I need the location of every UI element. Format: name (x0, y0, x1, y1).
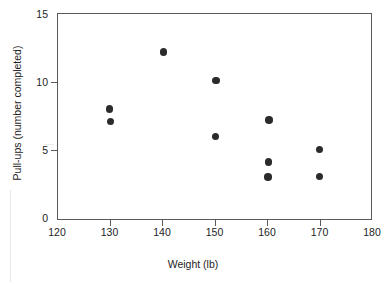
y-axis-tick-label: 5 (42, 144, 48, 156)
x-axis-tick (215, 220, 216, 226)
plot-area-frame (57, 13, 372, 220)
x-axis-tick-label: 130 (101, 226, 119, 238)
x-axis-tick (320, 220, 321, 226)
x-axis-tick (267, 220, 268, 226)
x-axis-tick-label: 160 (258, 226, 276, 238)
y-axis-tick-label: 15 (36, 8, 48, 20)
y-axis-label: Pull-ups (number completed) (11, 13, 23, 213)
x-axis-tick-label: 150 (206, 226, 224, 238)
scatter-plot-figure: 120130140150160170180051015 Weight (lb) … (0, 0, 386, 284)
y-axis-tick-label: 0 (42, 212, 48, 224)
x-axis-label: Weight (lb) (0, 258, 386, 270)
x-axis-tick-label: 120 (48, 226, 66, 238)
x-axis-tick-label: 180 (363, 226, 381, 238)
y-axis-tick-label: 10 (36, 76, 48, 88)
x-axis-tick (162, 220, 163, 226)
scan-artifact-mark (44, 144, 54, 145)
x-axis-tick-label: 170 (311, 226, 329, 238)
x-axis-tick-label: 140 (153, 226, 171, 238)
x-axis-tick (110, 220, 111, 226)
